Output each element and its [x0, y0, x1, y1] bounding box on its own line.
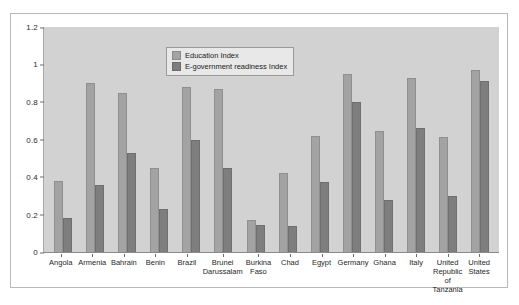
bar-egov-readiness-index[interactable]	[320, 182, 329, 252]
chart-frame: 00.20.40.60.811.2 Education Index E-gove…	[10, 13, 508, 288]
bar-group	[368, 27, 400, 252]
bar-group	[79, 27, 111, 252]
x-axis-label: Ghana	[369, 254, 401, 294]
x-axis-labels: AngolaArmeniaBahrainBeninBrazilBrunei Da…	[42, 254, 498, 294]
x-axis-label: Italy	[400, 254, 432, 294]
bar-education-index[interactable]	[214, 89, 223, 252]
bar-education-index[interactable]	[86, 83, 95, 252]
legend-swatch-education-icon	[172, 51, 181, 60]
bar-education-index[interactable]	[54, 181, 63, 252]
x-axis-label: Chad	[274, 254, 306, 294]
x-axis-label: Brunei Darussalam	[203, 254, 243, 294]
bar-education-index[interactable]	[407, 78, 416, 252]
y-axis-tick: 0.6	[26, 135, 44, 144]
x-axis-label: Bahrain	[108, 254, 140, 294]
bar-education-index[interactable]	[247, 220, 256, 252]
y-axis-tick: 0.2	[26, 210, 44, 219]
bar-egov-readiness-index[interactable]	[256, 225, 265, 252]
bar-group	[400, 27, 432, 252]
bar-education-index[interactable]	[279, 173, 288, 252]
x-axis-label: United States	[463, 254, 495, 294]
bar-education-index[interactable]	[471, 70, 480, 252]
legend-item-education: Education Index	[172, 51, 287, 60]
bar-egov-readiness-index[interactable]	[288, 226, 297, 252]
y-axis-tick: 1	[33, 60, 44, 69]
bar-group	[304, 27, 336, 252]
x-axis-label: Armenia	[77, 254, 109, 294]
chart-legend: Education Index E-government readiness I…	[166, 47, 294, 76]
bar-egov-readiness-index[interactable]	[416, 128, 425, 252]
y-axis-tick: 0.4	[26, 172, 44, 181]
x-axis-label: Benin	[140, 254, 172, 294]
bar-group	[464, 27, 496, 252]
bar-group	[336, 27, 368, 252]
bar-egov-readiness-index[interactable]	[95, 185, 104, 253]
bar-group	[47, 27, 79, 252]
bar-egov-readiness-index[interactable]	[63, 218, 72, 252]
x-axis-label: Brazil	[171, 254, 203, 294]
y-axis-tick: 1.2	[26, 23, 44, 32]
x-axis-label: Germany	[337, 254, 369, 294]
bar-education-index[interactable]	[311, 136, 320, 252]
bar-group	[432, 27, 464, 252]
bar-egov-readiness-index[interactable]	[191, 140, 200, 252]
bar-education-index[interactable]	[182, 87, 191, 252]
bar-education-index[interactable]	[150, 168, 159, 252]
x-axis-label: Angola	[45, 254, 77, 294]
x-axis-label: United Republic of Tanzania	[432, 254, 464, 294]
bar-egov-readiness-index[interactable]	[480, 81, 489, 252]
bar-education-index[interactable]	[343, 74, 352, 252]
legend-item-readiness: E-government readiness Index	[172, 62, 287, 71]
bar-education-index[interactable]	[439, 137, 448, 252]
bar-egov-readiness-index[interactable]	[223, 168, 232, 252]
legend-label-education: Education Index	[185, 51, 239, 60]
legend-swatch-readiness-icon	[172, 62, 181, 71]
bar-education-index[interactable]	[118, 93, 127, 252]
x-axis-label: Egypt	[306, 254, 338, 294]
bar-egov-readiness-index[interactable]	[352, 102, 361, 252]
bar-education-index[interactable]	[375, 131, 384, 252]
bar-egov-readiness-index[interactable]	[448, 196, 457, 252]
bar-egov-readiness-index[interactable]	[159, 209, 168, 252]
y-axis-tick: 0.8	[26, 97, 44, 106]
bar-egov-readiness-index[interactable]	[384, 200, 393, 253]
legend-label-readiness: E-government readiness Index	[185, 62, 287, 71]
bar-group	[111, 27, 143, 252]
x-axis-label: Burkina Faso	[243, 254, 275, 294]
bar-egov-readiness-index[interactable]	[127, 153, 136, 252]
